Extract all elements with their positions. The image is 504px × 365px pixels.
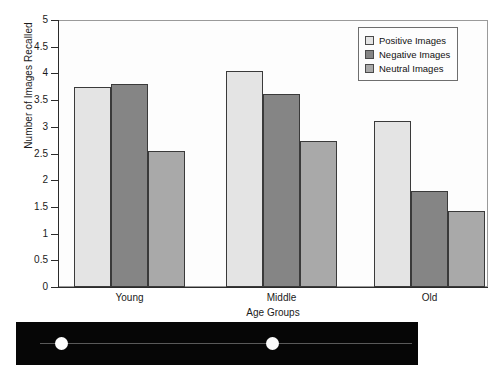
- bar-young-positive: [74, 87, 111, 287]
- y-tick-label: 4: [0, 67, 48, 78]
- y-tick-mark: [51, 20, 58, 21]
- bar-young-negative: [111, 84, 148, 287]
- legend-swatch-negative-icon: [365, 50, 374, 59]
- y-tick-label: 3.5: [0, 94, 48, 105]
- y-tick-mark: [51, 127, 58, 128]
- legend-label-neutral: Neutral Images: [379, 63, 443, 74]
- bar-young-neutral: [148, 151, 185, 287]
- legend-item-positive: Positive Images: [365, 33, 450, 47]
- strip-line: [40, 343, 412, 344]
- y-tick-label: 4.5: [0, 41, 48, 52]
- y-tick-label: 2.5: [0, 148, 48, 159]
- strip-dot-1: [55, 337, 68, 350]
- legend-item-negative: Negative Images: [365, 47, 450, 61]
- x-tick-label-young: Young: [70, 292, 190, 303]
- y-tick-mark: [51, 47, 58, 48]
- x-axis-line: [58, 287, 488, 288]
- y-tick-label: 1.5: [0, 201, 48, 212]
- y-tick-label: 3: [0, 121, 48, 132]
- y-tick-label: 2: [0, 174, 48, 185]
- x-tick-label-middle: Middle: [222, 292, 342, 303]
- legend-item-neutral: Neutral Images: [365, 61, 450, 75]
- figure: Number of Images Recalled 00.511.522.533…: [0, 0, 504, 365]
- x-axis-title: Age Groups: [58, 307, 488, 318]
- y-tick-mark: [51, 287, 58, 288]
- legend-swatch-positive-icon: [365, 36, 374, 45]
- legend-label-negative: Negative Images: [379, 49, 450, 60]
- y-tick-label: 0.5: [0, 254, 48, 265]
- y-tick-mark: [51, 207, 58, 208]
- y-tick-mark: [51, 260, 58, 261]
- strip-dot-2: [266, 337, 279, 350]
- y-tick-label: 5: [0, 14, 48, 25]
- y-tick-mark: [51, 154, 58, 155]
- bar-old-negative: [411, 191, 448, 287]
- bar-old-neutral: [448, 211, 485, 287]
- legend-label-positive: Positive Images: [379, 35, 446, 46]
- bar-middle-positive: [226, 71, 263, 287]
- bar-old-positive: [374, 121, 411, 287]
- y-tick-mark: [51, 180, 58, 181]
- chart-legend: Positive Images Negative Images Neutral …: [358, 27, 458, 81]
- y-tick-mark: [51, 234, 58, 235]
- x-tick-label-old: Old: [370, 292, 490, 303]
- y-tick-label: 0: [0, 281, 48, 292]
- legend-swatch-neutral-icon: [365, 64, 374, 73]
- bar-middle-neutral: [300, 141, 337, 287]
- bar-middle-negative: [263, 94, 300, 287]
- y-tick-label: 1: [0, 228, 48, 239]
- y-tick-mark: [51, 73, 58, 74]
- y-tick-mark: [51, 100, 58, 101]
- photo-strip: [16, 322, 418, 365]
